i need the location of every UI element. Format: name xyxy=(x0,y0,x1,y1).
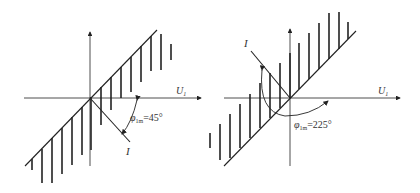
diagram-canvas: U1 I φ1m=45° I U1 φ1m=225° xyxy=(0,0,420,193)
hatch-lines xyxy=(32,34,171,183)
current-vector-line xyxy=(90,98,130,142)
angle-label-left: φ1m=45° xyxy=(130,112,163,124)
angle-label-right: φ1m=225° xyxy=(294,119,332,131)
left-diagram xyxy=(24,30,201,183)
current-label-left: I xyxy=(125,145,131,157)
axis-label-u1-right: U1 xyxy=(378,85,388,97)
right-diagram xyxy=(210,12,400,166)
hatch-lines xyxy=(210,12,348,160)
axis-label-u1-left: U1 xyxy=(176,85,186,97)
current-label-right: I xyxy=(243,37,249,49)
